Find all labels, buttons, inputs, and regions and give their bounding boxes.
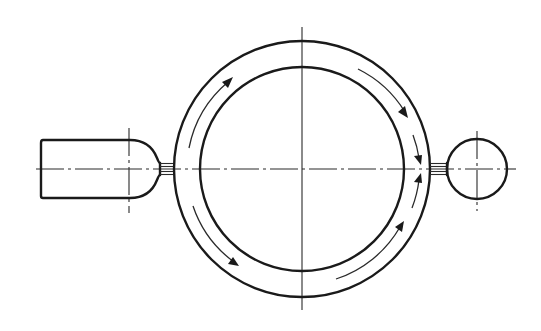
flow-arrow-upper-left bbox=[189, 82, 228, 148]
flow-arrow-right-upper bbox=[413, 135, 419, 158]
arrowhead-right-upper bbox=[414, 155, 422, 165]
flow-arrow-lower-left bbox=[193, 206, 234, 262]
arrowhead-upper-right bbox=[398, 106, 408, 118]
flow-arrow-right-lower bbox=[412, 180, 419, 208]
arrowhead-lower-right bbox=[395, 221, 404, 232]
flow-arrow-lower-right bbox=[336, 227, 400, 279]
ring-channel-diagram bbox=[0, 0, 541, 331]
arrowhead-right-lower bbox=[414, 173, 422, 183]
flow-arrows bbox=[189, 69, 422, 279]
